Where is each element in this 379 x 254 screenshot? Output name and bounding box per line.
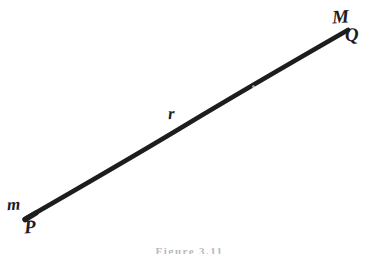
label-Q: Q <box>345 25 360 45</box>
label-r: r <box>168 105 176 122</box>
figure-background <box>0 0 379 254</box>
label-P: P <box>23 217 36 237</box>
label-m: m <box>7 196 21 214</box>
figure-drawing-canvas <box>0 0 379 254</box>
figure-container: M Q r m P Figure 3.11 <box>0 0 379 254</box>
ink-gap-speckle <box>252 85 255 88</box>
